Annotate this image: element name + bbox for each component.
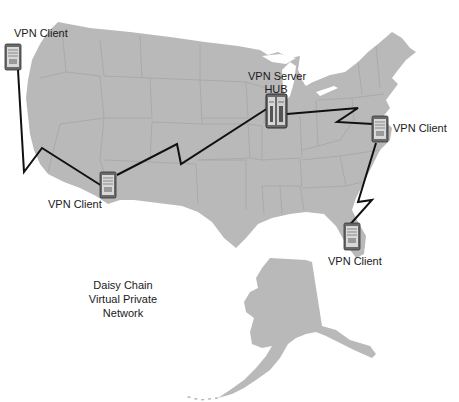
caption-line-3: Network xyxy=(70,306,176,320)
label-hub-line-2: HUB xyxy=(248,83,304,96)
caption-line-1: Daisy Chain xyxy=(70,278,176,292)
label-east-client: VPN Client xyxy=(393,122,447,135)
alaska-landmass xyxy=(218,258,376,398)
server-icon-west-client xyxy=(5,44,21,70)
label-hub: VPN Server HUB xyxy=(248,70,304,96)
diagram-caption: Daisy Chain Virtual Private Network xyxy=(70,278,176,320)
server-icon-southwest-client xyxy=(100,172,116,198)
label-florida-client: VPN Client xyxy=(328,255,382,268)
label-hub-line-1: VPN Server xyxy=(248,70,304,83)
server-icon-florida-client xyxy=(344,223,360,250)
server-icon-east-client xyxy=(372,116,388,142)
server-icon-hub xyxy=(266,94,287,128)
label-west-client: VPN Client xyxy=(14,27,68,40)
us-map xyxy=(26,22,416,400)
label-southwest-client: VPN Client xyxy=(48,198,102,211)
caption-line-2: Virtual Private xyxy=(70,292,176,306)
alaska-peninsula-islands xyxy=(185,396,218,400)
